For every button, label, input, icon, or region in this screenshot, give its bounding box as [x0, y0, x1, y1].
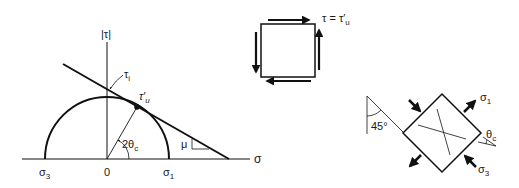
- mohr-coulomb-diagram: σ |τ| τ′u τi 2θc μ σ3 0: [0, 0, 519, 188]
- sigma1-label: σ1: [480, 91, 492, 106]
- sigma3-tick-label: σ3: [39, 166, 51, 181]
- crack-line-b: [437, 109, 450, 155]
- angle-label: 2θc: [122, 138, 138, 153]
- sigma1-arrow-top-right: [464, 101, 475, 112]
- sigma-axis-label: σ: [254, 152, 262, 166]
- mohr-circle-panel: σ |τ| τ′u τi 2θc μ σ3 0: [22, 28, 262, 181]
- sigma3-label: σ3: [478, 163, 490, 178]
- tangent-point-label: τ′u: [139, 90, 150, 105]
- radius-line: [107, 107, 137, 159]
- angle-45-arc: [367, 110, 381, 116]
- tau-axis-label: |τ|: [101, 28, 111, 40]
- failure-envelope-line: [63, 64, 229, 159]
- rotated-element-panel: 45° σ1 σ3 θc: [367, 91, 496, 178]
- tangent-point-dot: [134, 104, 140, 110]
- sigma3-arrow-top-left: [409, 100, 420, 111]
- theta-label: θc: [486, 128, 496, 143]
- tau-i-label: τi: [124, 68, 130, 83]
- slope-label: μ: [181, 138, 187, 150]
- tau-i-leader: [110, 75, 123, 89]
- sigma1-arrow-bottom-left: [410, 155, 421, 166]
- shear-element-label: τ = τ′u: [322, 12, 350, 27]
- origin-label: 0: [104, 166, 110, 178]
- shear-element-panel: τ = τ′u: [256, 12, 350, 81]
- sigma1-tick-label: σ1: [163, 166, 175, 181]
- theta-arc: [486, 140, 487, 144]
- angle-45-label: 45°: [371, 120, 388, 132]
- shear-element-square: [261, 24, 315, 77]
- slope-triangle: [192, 139, 209, 149]
- sigma3-arrow-bottom-right: [465, 156, 476, 167]
